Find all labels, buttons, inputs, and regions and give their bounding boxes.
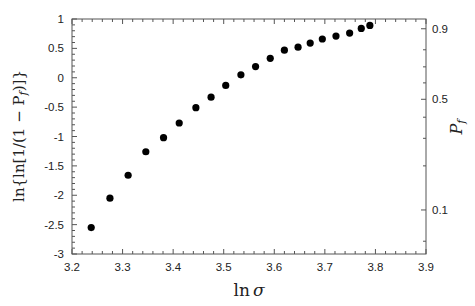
data-point [307,39,314,46]
y-tick-label: 1 [58,13,64,25]
data-point [281,47,288,54]
x-tick-label: 3.9 [418,261,434,273]
data-point [346,29,353,36]
data-point [207,94,214,101]
plot-frame [72,19,426,254]
data-point [294,44,301,51]
y2-tick-label: 0.1 [432,204,448,216]
x-tick-label: 3.7 [317,261,333,273]
data-point [366,22,373,29]
y-tick-label: -0.5 [44,101,64,113]
y-tick-label: 0 [58,72,64,84]
chart-canvas: 3.23.33.43.53.63.73.83.910.50-0.5-1-1.5-… [0,0,475,306]
data-point [222,82,229,89]
data-point [106,195,113,202]
y-tick-label: -2 [54,189,64,201]
data-point [88,224,95,231]
axis-ticks [72,19,426,254]
x-tick-label: 3.5 [216,261,232,273]
data-point [332,32,339,39]
y2-axis-title: Pf [447,118,468,136]
x-axis-title: lnσ [234,280,265,300]
x-tick-label: 3.3 [115,261,131,273]
data-point [160,134,167,141]
y-tick-label: -1.5 [44,160,64,172]
data-point [192,104,199,111]
data-points [88,22,374,231]
data-point [267,55,274,62]
data-point [125,172,132,179]
x-tick-label: 3.2 [64,261,80,273]
data-point [358,25,365,32]
data-point [142,148,149,155]
y-tick-label: 0.5 [48,42,64,54]
tick-labels: 3.23.33.43.53.63.73.83.910.50-0.5-1-1.5-… [44,13,448,273]
data-point [176,119,183,126]
x-tick-label: 3.8 [367,261,383,273]
data-point [319,35,326,42]
y-tick-label: -2.5 [44,219,64,231]
x-tick-label: 3.6 [266,261,282,273]
y2-tick-label: 0.5 [432,93,448,105]
data-point [252,63,259,70]
y2-tick-label: 0.9 [432,23,448,35]
data-point [237,71,244,78]
plot-axes [72,19,426,254]
y-tick-label: -3 [54,248,64,260]
y-axis-title: ln{ln[1/(1 − Pf)]} [10,70,30,202]
y-tick-label: -1 [54,131,64,143]
x-tick-label: 3.4 [165,261,182,273]
